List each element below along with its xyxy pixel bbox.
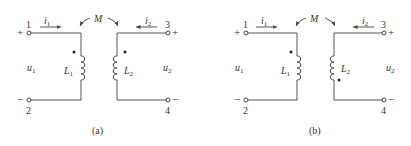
inductor-label-l1: L1 <box>63 65 74 78</box>
terminal-1 <box>244 31 248 35</box>
minus-sign-2: − <box>17 93 23 105</box>
inductor-label-l1: L1 <box>280 65 291 78</box>
terminal-2 <box>244 98 248 102</box>
terminal-1 <box>27 31 31 35</box>
voltage-label-u1: u1 <box>235 62 244 75</box>
inductor-l2-coil <box>330 56 334 80</box>
terminal-label-3: 3 <box>165 19 170 30</box>
mutual-inductance-label: M <box>309 13 319 24</box>
wire-bottom-left <box>246 80 297 100</box>
current-label-i2: i2 <box>145 15 152 28</box>
terminal-3 <box>382 31 386 35</box>
figure-caption-a: (a) <box>92 125 103 137</box>
mutual-arrow-left <box>80 18 90 26</box>
terminal-label-3: 3 <box>381 19 386 30</box>
voltage-label-u1: u1 <box>27 62 36 75</box>
wire-bottom-right <box>334 80 384 100</box>
inductor-l1-coil <box>81 56 85 80</box>
wire-top-right <box>334 33 384 56</box>
wire-bottom-right <box>117 80 168 100</box>
inductor-label-l2: L2 <box>123 65 134 78</box>
voltage-label-u2: u2 <box>163 62 172 75</box>
current-label-i1: i1 <box>261 15 268 28</box>
terminal-label-1: 1 <box>243 19 248 30</box>
wire-top-left <box>246 33 297 56</box>
terminal-label-4: 4 <box>165 105 170 116</box>
polarity-dot-l1 <box>290 51 293 54</box>
current-label-i1: i1 <box>44 15 51 28</box>
mutual-arrow-right <box>108 18 118 26</box>
wire-bottom-left <box>29 80 81 100</box>
minus-sign-2: − <box>234 93 240 105</box>
terminal-3 <box>166 31 170 35</box>
current-label-i2: i2 <box>362 15 369 28</box>
terminal-4 <box>166 98 170 102</box>
plus-sign-1: + <box>234 26 240 38</box>
terminal-label-1: 1 <box>26 19 31 30</box>
plus-sign-3: + <box>388 26 394 38</box>
mutual-arrow-right <box>325 18 335 26</box>
voltage-label-u2: u2 <box>386 62 395 75</box>
mutual-arrow-left <box>296 18 306 26</box>
polarity-dot-l1 <box>73 51 76 54</box>
minus-sign-4: − <box>388 93 394 105</box>
terminal-2 <box>27 98 31 102</box>
mutual-inductance-label: M <box>93 13 103 24</box>
inductor-l2-coil <box>113 56 117 80</box>
terminal-label-4: 4 <box>381 105 386 116</box>
inductor-label-l2: L2 <box>340 63 351 76</box>
coupled-inductor-circuit-a: + 1 − 2 + 3 − 4 i1 i2 M L1 L2 u1 u2 (a) <box>17 13 178 137</box>
terminal-4 <box>382 98 386 102</box>
coupled-inductor-circuit-b: + 1 − 2 + 3 − 4 i1 i2 M L1 L2 u1 u2 (b) <box>234 13 395 137</box>
inductor-l1-coil <box>297 56 301 80</box>
figure-caption-b: (b) <box>309 125 321 137</box>
minus-sign-4: − <box>172 93 178 105</box>
plus-sign-1: + <box>17 26 23 38</box>
terminal-label-2: 2 <box>243 105 248 116</box>
plus-sign-3: + <box>172 26 178 38</box>
polarity-dot-l2 <box>338 79 341 82</box>
polarity-dot-l2 <box>124 51 127 54</box>
terminal-label-2: 2 <box>26 105 31 116</box>
